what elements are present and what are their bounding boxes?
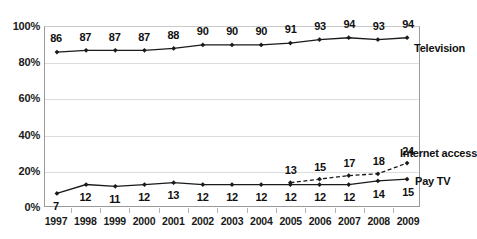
data-point-marker — [171, 180, 176, 185]
data-point-marker — [375, 37, 380, 42]
x-axis-tick-mark — [305, 208, 306, 213]
data-point-marker — [230, 43, 235, 48]
data-point-marker — [346, 173, 351, 178]
data-point-label: 87 — [109, 31, 121, 43]
data-point-label: 88 — [168, 29, 180, 41]
x-axis-tick-mark — [159, 208, 160, 213]
data-point-label: 15 — [314, 161, 326, 173]
x-axis-tick-label: 1999 — [103, 215, 126, 227]
series-label-pay-tv: Pay TV — [415, 175, 451, 187]
x-axis-tick-label: 2005 — [279, 215, 302, 227]
data-point-label: 13 — [285, 164, 297, 176]
data-point-label: 12 — [256, 191, 268, 203]
data-point-label: 12 — [226, 191, 238, 203]
data-point-label: 94 — [344, 18, 356, 30]
x-axis-tick-label: 2002 — [191, 215, 214, 227]
series-label-television: Television — [414, 42, 465, 54]
x-axis-tick-label: 2008 — [367, 215, 390, 227]
data-point-label: 14 — [373, 188, 385, 200]
y-axis-tick-label: 60% — [0, 92, 40, 104]
x-axis-tick-label: 2009 — [397, 215, 420, 227]
data-point-marker — [200, 182, 205, 187]
x-axis-tick-label: 2004 — [250, 215, 273, 227]
data-point-marker — [317, 182, 322, 187]
data-point-marker — [405, 161, 410, 166]
data-point-marker — [200, 43, 205, 48]
data-point-label: 94 — [402, 18, 414, 30]
data-point-label: 87 — [138, 31, 150, 43]
data-point-marker — [55, 191, 60, 196]
data-point-label: 12 — [344, 191, 356, 203]
data-point-marker — [346, 182, 351, 187]
data-point-marker — [55, 50, 60, 55]
x-axis-tick-mark — [71, 208, 72, 213]
data-point-label: 12 — [138, 191, 150, 203]
y-axis-tick-label: 0% — [0, 201, 40, 213]
x-axis-tick-mark — [364, 208, 365, 213]
data-point-label: 18 — [373, 155, 385, 167]
data-point-marker — [346, 35, 351, 40]
data-point-marker — [84, 48, 89, 53]
x-axis-tick-label: 1997 — [45, 215, 68, 227]
x-axis-tick-mark — [393, 208, 394, 213]
y-axis-tick-label: 20% — [0, 165, 40, 177]
data-point-label: 87 — [80, 31, 92, 43]
data-point-marker — [171, 46, 176, 51]
x-axis-tick-label: 1998 — [74, 215, 97, 227]
x-axis-tick-label: 2003 — [221, 215, 244, 227]
data-point-label: 86 — [50, 32, 62, 44]
data-point-label: 12 — [80, 191, 92, 203]
data-point-label: 13 — [168, 189, 180, 201]
data-point-marker — [142, 182, 147, 187]
data-point-marker — [288, 41, 293, 46]
x-axis-tick-label: 2006 — [309, 215, 332, 227]
data-point-label: 93 — [373, 20, 385, 32]
plot-area — [44, 26, 420, 207]
data-point-marker — [230, 182, 235, 187]
data-point-marker — [375, 179, 380, 184]
data-point-marker — [84, 182, 89, 187]
x-axis-tick-mark — [247, 208, 248, 213]
x-axis-tick-mark — [100, 208, 101, 213]
y-axis-tick-label: 40% — [0, 129, 40, 141]
data-point-marker — [113, 48, 118, 53]
y-axis-tick-label: 100% — [0, 20, 40, 32]
data-point-label: 90 — [197, 25, 209, 37]
data-point-marker — [317, 37, 322, 42]
data-point-label: 90 — [256, 25, 268, 37]
x-axis-tick-mark — [129, 208, 130, 213]
data-point-label: 12 — [314, 191, 326, 203]
x-axis-tick-mark — [335, 208, 336, 213]
data-point-label: 91 — [285, 23, 297, 35]
data-point-label: 11 — [109, 193, 120, 205]
x-axis-tick-mark — [188, 208, 189, 213]
x-axis-tick-mark — [276, 208, 277, 213]
data-point-marker — [375, 171, 380, 176]
data-point-label: 12 — [197, 191, 209, 203]
data-point-label: 17 — [344, 157, 356, 169]
data-point-marker — [405, 177, 410, 182]
x-axis-tick-mark — [217, 208, 218, 213]
data-point-marker — [405, 35, 410, 40]
data-point-label: 12 — [285, 191, 297, 203]
data-point-marker — [142, 48, 147, 53]
data-point-label: 15 — [402, 186, 414, 198]
series-layer — [45, 27, 419, 206]
data-point-label: 7 — [53, 200, 59, 212]
data-point-label: 90 — [226, 25, 238, 37]
data-point-marker — [317, 177, 322, 182]
data-point-marker — [259, 43, 264, 48]
x-axis-tick-label: 2000 — [133, 215, 156, 227]
x-axis-tick-label: 2001 — [162, 215, 185, 227]
data-point-label: 93 — [314, 20, 326, 32]
data-point-marker — [259, 182, 264, 187]
data-point-marker — [113, 184, 118, 189]
y-axis-tick-label: 80% — [0, 56, 40, 68]
x-axis-tick-label: 2007 — [338, 215, 361, 227]
series-label-internet-access: Internet access — [400, 147, 477, 159]
